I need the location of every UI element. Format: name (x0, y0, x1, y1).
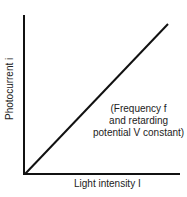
x-axis-label: Light intensity I (74, 178, 141, 189)
diagram-canvas (0, 0, 187, 197)
annotation-line-1: (Frequency f (93, 103, 184, 115)
proportional-line (25, 24, 168, 174)
annotation-line-3: potential V constant) (93, 127, 184, 139)
conditions-annotation: (Frequency f and retarding potential V c… (93, 103, 184, 139)
annotation-line-2: and retarding (93, 115, 184, 127)
y-axis-label: Photocurrent i (4, 58, 15, 120)
